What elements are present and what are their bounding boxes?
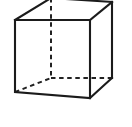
cube-front-face-fill	[15, 20, 90, 98]
cube-figure-container	[0, 0, 132, 127]
cube-diagram	[0, 0, 132, 127]
